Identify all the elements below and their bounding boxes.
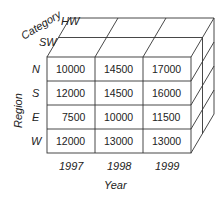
year-axis-label: Year xyxy=(104,179,128,191)
cell-s-1999: 16000 xyxy=(152,87,181,99)
cell-e-1998: 10000 xyxy=(104,111,133,123)
cell-s-1997: 12000 xyxy=(56,87,85,99)
category-label-hw: HW xyxy=(61,15,81,27)
cell-n-1998: 14500 xyxy=(104,63,133,75)
cell-n-1997: 10000 xyxy=(56,63,85,75)
year-label-1997: 1997 xyxy=(59,160,84,172)
category-label-sw: SW xyxy=(39,36,58,48)
year-label-1998: 1998 xyxy=(107,160,132,172)
cell-w-1997: 12000 xyxy=(56,135,85,147)
region-label-s: S xyxy=(32,87,40,99)
region-label-w: W xyxy=(31,135,43,147)
cell-s-1998: 14500 xyxy=(104,87,133,99)
region-axis-label: Region xyxy=(12,93,24,128)
region-label-e: E xyxy=(32,111,40,123)
cube-right-face xyxy=(191,18,214,153)
cell-n-1999: 17000 xyxy=(152,63,181,75)
cell-w-1998: 13000 xyxy=(104,135,133,147)
region-label-n: N xyxy=(32,63,40,75)
cell-w-1999: 13000 xyxy=(152,135,181,147)
year-label-1999: 1999 xyxy=(155,160,179,172)
cell-e-1997: 7500 xyxy=(62,111,86,123)
data-cube-diagram: Category HW SW Region N S E W 1997 1998 … xyxy=(0,0,224,198)
cell-e-1999: 11500 xyxy=(152,111,181,123)
